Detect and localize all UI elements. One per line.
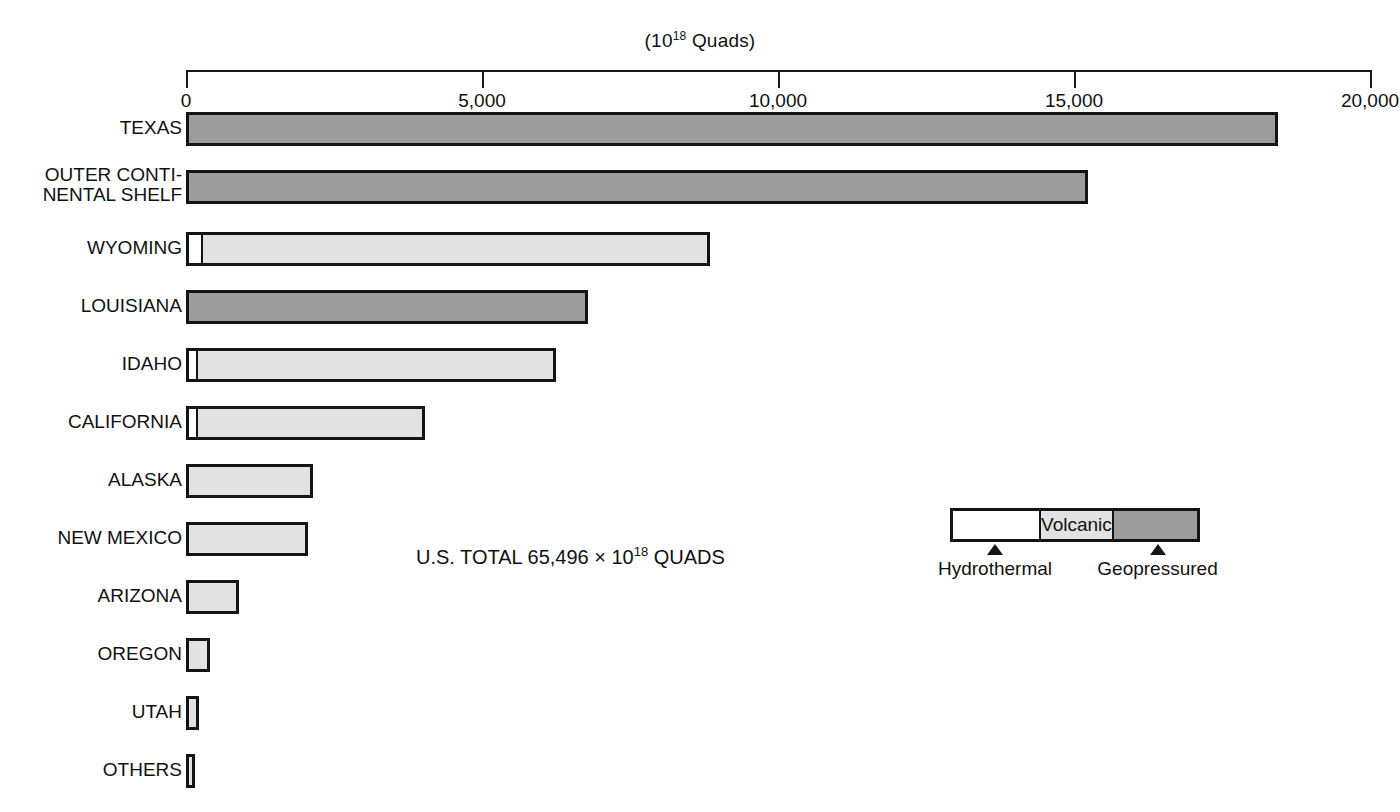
bar — [186, 348, 556, 382]
bar — [186, 638, 210, 672]
bar-category-label: IDAHO — [0, 354, 182, 373]
bar — [186, 232, 710, 266]
bar-segment-geopressured — [189, 173, 1085, 201]
bar-segment-volcanic — [189, 757, 192, 785]
bar-segment-volcanic — [198, 409, 422, 437]
x-axis-tick-label: 20,000 — [1341, 90, 1399, 112]
legend-swatch-hydrothermal — [953, 511, 1041, 539]
bar — [186, 406, 425, 440]
bar-row: CALIFORNIA — [0, 406, 1400, 440]
bar-segment-volcanic — [189, 525, 305, 553]
bar-segment-volcanic — [203, 235, 707, 263]
bar — [186, 290, 588, 324]
bar-segment-volcanic — [189, 467, 310, 495]
bar-category-label: OTHERS — [0, 760, 182, 779]
bar-segment-geopressured — [189, 293, 585, 321]
bar-segment-volcanic — [189, 699, 196, 727]
x-axis-tick — [186, 70, 188, 88]
x-axis-tick-label: 0 — [181, 90, 192, 112]
bar-row: UTAH — [0, 696, 1400, 730]
bar-segment-hydrothermal — [189, 409, 198, 437]
pointer-hydrothermal-icon — [987, 544, 1003, 555]
legend-swatch-volcanic: Volcanic — [1041, 511, 1114, 539]
axis-title-prefix: (10 — [645, 30, 673, 51]
x-axis-tick-label: 5,000 — [458, 90, 506, 112]
total-note-exponent: 18 — [634, 544, 648, 559]
bar-row: OTHERS — [0, 754, 1400, 788]
bar — [186, 112, 1278, 146]
bar — [186, 464, 313, 498]
bar-segment-hydrothermal — [189, 235, 203, 263]
total-note-prefix: U.S. TOTAL 65,496 — [416, 546, 594, 568]
bar-category-label: CALIFORNIA — [0, 412, 182, 431]
legend-swatch-geopressured — [1114, 511, 1197, 539]
x-axis-tick-label: 15,000 — [1045, 90, 1103, 112]
bar — [186, 696, 199, 730]
bar — [186, 580, 239, 614]
bar — [186, 522, 308, 556]
axis-title-exponent: 18 — [673, 29, 687, 43]
x-axis-tick — [778, 70, 780, 88]
axis-title-suffix: Quads) — [686, 30, 755, 51]
legend-label-geopressured: Geopressured — [1097, 558, 1217, 580]
bar-segment-geopressured — [189, 115, 1275, 143]
bar-row: ALASKA — [0, 464, 1400, 498]
x-axis-tick — [1370, 70, 1372, 88]
bar-segment-volcanic — [198, 351, 553, 379]
bar-row: ARIZONA — [0, 580, 1400, 614]
bar-category-label: ALASKA — [0, 470, 182, 489]
legend-label-hydrothermal: Hydrothermal — [938, 558, 1052, 580]
bar-row: LOUISIANA — [0, 290, 1400, 324]
us-total-annotation: U.S. TOTAL 65,496 × 1018 QUADS — [416, 546, 725, 569]
bar-category-label: UTAH — [0, 702, 182, 721]
x-axis-tick — [482, 70, 484, 88]
bar-category-label: WYOMING — [0, 238, 182, 257]
bar — [186, 754, 195, 788]
legend-swatch-bar: Volcanic — [950, 508, 1200, 542]
bar-row: OUTER CONTI- NENTAL SHELF — [0, 170, 1400, 204]
bar-category-label: OREGON — [0, 644, 182, 663]
total-note-mid: 10 — [606, 546, 634, 568]
bar-row: IDAHO — [0, 348, 1400, 382]
bar-chart: (1018 Quads) TEXASOUTER CONTI- NENTAL SH… — [0, 0, 1400, 812]
chart-axis-title: (1018 Quads) — [0, 30, 1400, 52]
bar-segment-volcanic — [189, 583, 236, 611]
bar-category-label: ARIZONA — [0, 586, 182, 605]
bar-category-label: NEW MEXICO — [0, 528, 182, 547]
bar-segment-volcanic — [189, 641, 207, 669]
bar-category-label: LOUISIANA — [0, 296, 182, 315]
pointer-geopressured-icon — [1150, 544, 1166, 555]
x-axis — [186, 70, 1370, 92]
x-axis-tick-label: 10,000 — [749, 90, 807, 112]
bar-segment-hydrothermal — [189, 351, 198, 379]
multiply-sign: × — [594, 546, 606, 568]
bar-row: WYOMING — [0, 232, 1400, 266]
bar — [186, 170, 1088, 204]
bar-category-label: TEXAS — [0, 118, 182, 137]
bar-category-label: OUTER CONTI- NENTAL SHELF — [0, 165, 182, 205]
x-axis-tick — [1074, 70, 1076, 88]
bar-row: OREGON — [0, 638, 1400, 672]
total-note-suffix: QUADS — [648, 546, 725, 568]
bar-row: TEXAS — [0, 112, 1400, 146]
